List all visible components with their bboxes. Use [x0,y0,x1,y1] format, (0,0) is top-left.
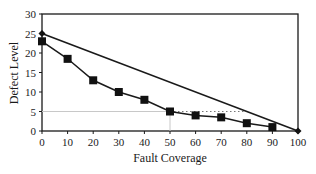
x-axis-title: Fault Coverage [133,151,207,165]
y-tick-label: 0 [31,125,37,137]
y-tick-label: 20 [25,47,37,59]
square-marker [140,96,148,104]
square-marker [89,76,97,84]
y-axis-title: Defect Level [7,41,21,104]
series-line-measured [42,41,272,127]
x-tick-label: 80 [241,136,253,148]
square-marker [64,55,72,63]
y-tick-label: 25 [25,28,37,40]
square-marker [217,113,225,121]
x-tick-label: 0 [39,136,45,148]
x-tick-label: 50 [165,136,177,148]
square-marker [115,88,123,96]
x-tick-label: 100 [290,136,307,148]
defect-level-chart: 051015202530 0102030405060708090100 Defe… [0,0,316,174]
square-marker [268,123,276,131]
y-tick-label: 5 [31,106,37,118]
x-tick-label: 90 [267,136,279,148]
x-tick-label: 10 [62,136,74,148]
x-tick-label: 60 [190,136,202,148]
y-tick-label: 10 [25,86,37,98]
y-tick-label: 30 [25,8,37,20]
square-marker [166,108,174,116]
square-marker [38,37,46,45]
square-marker [243,119,251,127]
x-tick-label: 30 [113,136,125,148]
x-tick-label: 40 [139,136,151,148]
y-axis-ticks: 051015202530 [25,8,42,137]
square-marker [192,111,200,119]
y-tick-label: 15 [25,67,37,79]
reference-lines [42,112,247,132]
x-tick-label: 70 [216,136,228,148]
x-tick-label: 20 [88,136,100,148]
x-axis-ticks: 0102030405060708090100 [39,131,307,148]
